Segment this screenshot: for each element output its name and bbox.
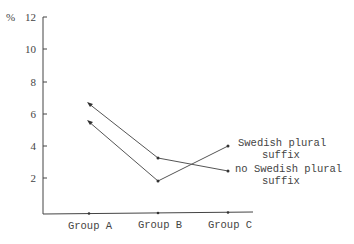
legend-no-swedish-line2: suffix: [262, 175, 300, 187]
y-tick-labels: 12 10 8 6 4 2: [25, 11, 37, 184]
ytick-8: 8: [31, 76, 37, 88]
ytick-12: 12: [25, 11, 36, 23]
xlabel-group-c: Group C: [208, 219, 252, 231]
legend-swedish-line2: suffix: [262, 149, 300, 161]
legend: Swedish plural suffix no Swedish plural …: [235, 137, 342, 187]
ytick-10: 10: [25, 43, 37, 55]
x-axis: [43, 212, 253, 214]
series-no-swedish-line: [88, 103, 228, 171]
x-tick-labels: Group A Group B Group C: [68, 219, 252, 232]
ytick-4: 4: [31, 140, 37, 152]
legend-no-swedish-line1: no Swedish plural: [235, 163, 342, 175]
series-swedish-line: [88, 121, 228, 181]
xlabel-group-b: Group B: [138, 219, 182, 231]
y-unit-label: %: [6, 11, 15, 23]
legend-swedish-line1: Swedish plural: [238, 137, 326, 149]
line-chart: % 12 10 8 6 4 2 Group A Group B Group C: [0, 0, 354, 244]
ytick-2: 2: [31, 172, 37, 184]
ytick-6: 6: [31, 108, 37, 120]
data-point-markers: [87, 102, 230, 183]
y-ticks: [43, 17, 47, 178]
xlabel-group-a: Group A: [68, 220, 113, 232]
